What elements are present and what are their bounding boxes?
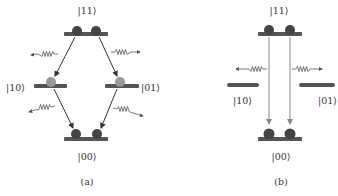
state-label-11-b: |11⟩ (270, 5, 289, 17)
particle-icon (46, 77, 56, 87)
state-label-00-a: |00⟩ (78, 151, 97, 163)
level-00-b (258, 137, 302, 141)
level-10-b (227, 83, 259, 87)
state-label-10-b: |10⟩ (233, 95, 252, 107)
photon-wave-icon (292, 67, 322, 72)
panel-b-caption: (b) (274, 176, 288, 187)
particle-icon (264, 25, 274, 35)
particle-icon (71, 129, 81, 139)
level-11-a (64, 32, 108, 36)
photon-wave-icon (111, 50, 140, 55)
photon-wave-icon (236, 67, 267, 72)
photon-wave-icon (31, 52, 58, 57)
state-label-11-a: |11⟩ (78, 5, 97, 17)
particle-icon (91, 26, 101, 36)
photon-wave-icon (113, 107, 143, 117)
particle-icon (285, 25, 295, 35)
particle-icon (92, 129, 102, 139)
level-00-a (64, 137, 108, 141)
particle-icon (72, 26, 82, 36)
state-label-01-a: |01⟩ (141, 82, 160, 94)
transition-arrow (55, 37, 75, 76)
panel-a-caption: (a) (80, 176, 93, 187)
particle-icon (115, 77, 125, 87)
level-11-b (258, 32, 302, 36)
panel-a: |11⟩ |10⟩ |01⟩ |00⟩ (a) (6, 5, 160, 187)
state-label-10-a: |10⟩ (6, 82, 25, 94)
level-01-b (299, 83, 335, 87)
transition-arrow (54, 89, 73, 128)
energy-level-diagram: |11⟩ |10⟩ |01⟩ |00⟩ (a) |11⟩ (0, 0, 338, 196)
state-label-01-b: |01⟩ (318, 95, 337, 107)
photon-wave-icon (29, 105, 55, 113)
transition-arrow (99, 37, 117, 76)
particle-icon (264, 129, 275, 140)
particle-icon (285, 129, 296, 140)
panel-b: |11⟩ |10⟩ |01⟩ |00⟩ (b) (227, 5, 337, 187)
state-label-00-b: |00⟩ (272, 151, 291, 163)
